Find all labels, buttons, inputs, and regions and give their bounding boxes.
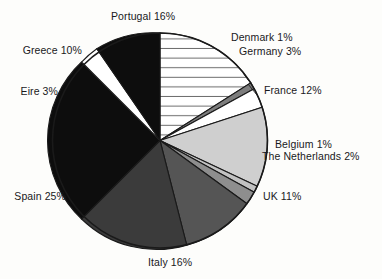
label-italy: Italy 16% (148, 256, 192, 269)
label-belgium: Belgium 1% (275, 138, 332, 151)
label-portugal: Portugal 16% (111, 10, 175, 23)
label-france: France 12% (264, 84, 322, 97)
label-denmark: Denmark 1% (231, 31, 293, 44)
label-greece: Greece 10% (2, 44, 82, 57)
label-germany: Germany 3% (239, 45, 301, 58)
label-eire: Eire 3% (2, 85, 58, 98)
pie-chart-page: Portugal 16% Denmark 1% Germany 3% Franc… (0, 0, 382, 279)
label-netherlands: The Netherlands 2% (262, 150, 360, 163)
label-uk: UK 11% (263, 190, 301, 203)
label-spain: Spain 25% (2, 190, 66, 203)
